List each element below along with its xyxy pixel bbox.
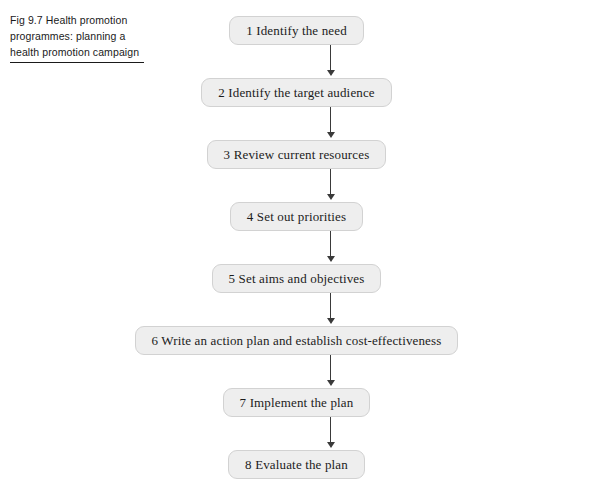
- flowchart-arrow-5-to-6: [326, 293, 335, 324]
- flowchart-arrow-3-to-4: [326, 169, 335, 200]
- arrow-shaft: [330, 107, 331, 132]
- flowchart-arrow-4-to-5: [326, 231, 335, 262]
- flowchart-node-5[interactable]: 5 Set aims and objectives: [212, 264, 382, 293]
- flowchart: 1 Identify the need 2 Identify the targe…: [0, 0, 593, 500]
- flowchart-node-row-8: 8 Evaluate the plan: [0, 450, 593, 479]
- flowchart-arrow-7-to-8: [326, 417, 335, 448]
- arrow-head-icon: [327, 70, 335, 76]
- arrow-head-icon: [327, 256, 335, 262]
- flowchart-arrow-2-to-3: [326, 107, 335, 138]
- arrow-shaft: [330, 417, 331, 442]
- arrow-head-icon: [327, 380, 335, 386]
- arrow-shaft: [330, 169, 331, 194]
- arrow-shaft: [330, 293, 331, 318]
- flowchart-node-4[interactable]: 4 Set out priorities: [230, 202, 363, 231]
- flowchart-arrow-1-to-2: [326, 45, 335, 76]
- arrow-head-icon: [327, 318, 335, 324]
- flowchart-node-row-1: 1 Identify the need: [0, 16, 593, 45]
- arrow-head-icon: [327, 132, 335, 138]
- arrow-shaft: [330, 45, 331, 70]
- flowchart-arrow-6-to-7: [326, 355, 335, 386]
- flowchart-node-row-6: 6 Write an action plan and establish cos…: [0, 326, 593, 355]
- flowchart-node-6[interactable]: 6 Write an action plan and establish cos…: [135, 326, 459, 355]
- flowchart-node-row-5: 5 Set aims and objectives: [0, 264, 593, 293]
- arrow-head-icon: [327, 442, 335, 448]
- arrow-shaft: [330, 231, 331, 256]
- arrow-head-icon: [327, 194, 335, 200]
- flowchart-node-2[interactable]: 2 Identify the target audience: [201, 78, 392, 107]
- flowchart-node-1[interactable]: 1 Identify the need: [229, 16, 364, 45]
- flowchart-node-row-3: 3 Review current resources: [0, 140, 593, 169]
- flowchart-node-3[interactable]: 3 Review current resources: [207, 140, 387, 169]
- flowchart-node-row-7: 7 Implement the plan: [0, 388, 593, 417]
- flowchart-node-row-4: 4 Set out priorities: [0, 202, 593, 231]
- flowchart-node-7[interactable]: 7 Implement the plan: [223, 388, 371, 417]
- arrow-shaft: [330, 355, 331, 380]
- flowchart-node-8[interactable]: 8 Evaluate the plan: [228, 450, 365, 479]
- flowchart-node-row-2: 2 Identify the target audience: [0, 78, 593, 107]
